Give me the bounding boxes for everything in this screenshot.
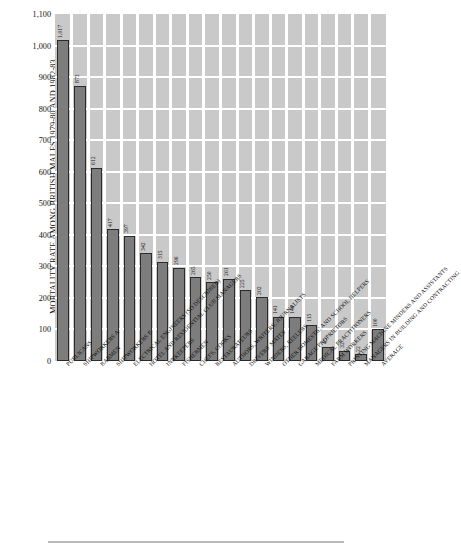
bar-value-label: 100 [372, 318, 378, 327]
bar-column[interactable]: 1,017 [57, 14, 69, 361]
bar-column[interactable]: 45 [322, 14, 334, 361]
bar-value-label: 342 [140, 242, 146, 251]
y-tick-700: 700 [9, 136, 51, 145]
bar-value-label: 265 [190, 266, 196, 275]
bar-value-label: 141 [272, 305, 278, 314]
bar-value-label: 417 [107, 218, 113, 227]
bar-value-label: 250 [206, 271, 212, 280]
y-tick-200: 200 [9, 293, 51, 302]
y-tick-900: 900 [9, 73, 51, 82]
y-axis-tick-labels: 01002003004005006007008009001,0001,100 [4, 14, 51, 361]
bar-column[interactable]: 315 [157, 14, 169, 361]
bar-value-label: 315 [157, 250, 163, 259]
y-tick-0: 0 [9, 357, 51, 366]
x-axis-tick-labels: PUBLICANSSHIPWORKERS ABARMENSHIPWORKERS … [55, 363, 386, 541]
bar-column[interactable]: 342 [140, 14, 152, 361]
bar[interactable] [91, 168, 103, 361]
bar-column[interactable]: 225 [240, 14, 252, 361]
y-tick-800: 800 [9, 104, 51, 113]
bar-value-label: 225 [239, 279, 245, 288]
caption-divider [48, 541, 344, 543]
y-tick-500: 500 [9, 199, 51, 208]
bar-column[interactable]: 202 [256, 14, 268, 361]
y-tick-300: 300 [9, 262, 51, 271]
bar-column[interactable]: 261 [223, 14, 235, 361]
y-tick-1000: 1,000 [9, 41, 51, 50]
bar[interactable] [124, 236, 136, 361]
bar-value-label: 612 [90, 157, 96, 166]
bar-value-label: 1,017 [57, 25, 63, 38]
bar-column[interactable]: 100 [372, 14, 384, 361]
bar-value-label: 296 [173, 256, 179, 265]
bar-column[interactable]: 873 [74, 14, 86, 361]
bar-value-label: 397 [123, 225, 129, 234]
y-tick-1100: 1,100 [9, 10, 51, 19]
bar[interactable] [74, 86, 86, 361]
bar[interactable] [57, 40, 69, 361]
bar-column[interactable]: 612 [91, 14, 103, 361]
bar-value-label: 873 [74, 74, 80, 83]
y-tick-600: 600 [9, 167, 51, 176]
bar-column[interactable]: 296 [173, 14, 185, 361]
bar-value-label: 261 [223, 267, 229, 276]
y-tick-100: 100 [9, 325, 51, 334]
bar-value-label: 115 [306, 314, 312, 322]
bar-column[interactable]: 397 [124, 14, 136, 361]
bar-column[interactable]: 115 [306, 14, 318, 361]
bar-value-label: 202 [256, 286, 262, 295]
bar-column[interactable]: 141 [273, 14, 285, 361]
bar-column[interactable]: 22 [355, 14, 367, 361]
bar-column[interactable]: 417 [107, 14, 119, 361]
y-tick-400: 400 [9, 230, 51, 239]
